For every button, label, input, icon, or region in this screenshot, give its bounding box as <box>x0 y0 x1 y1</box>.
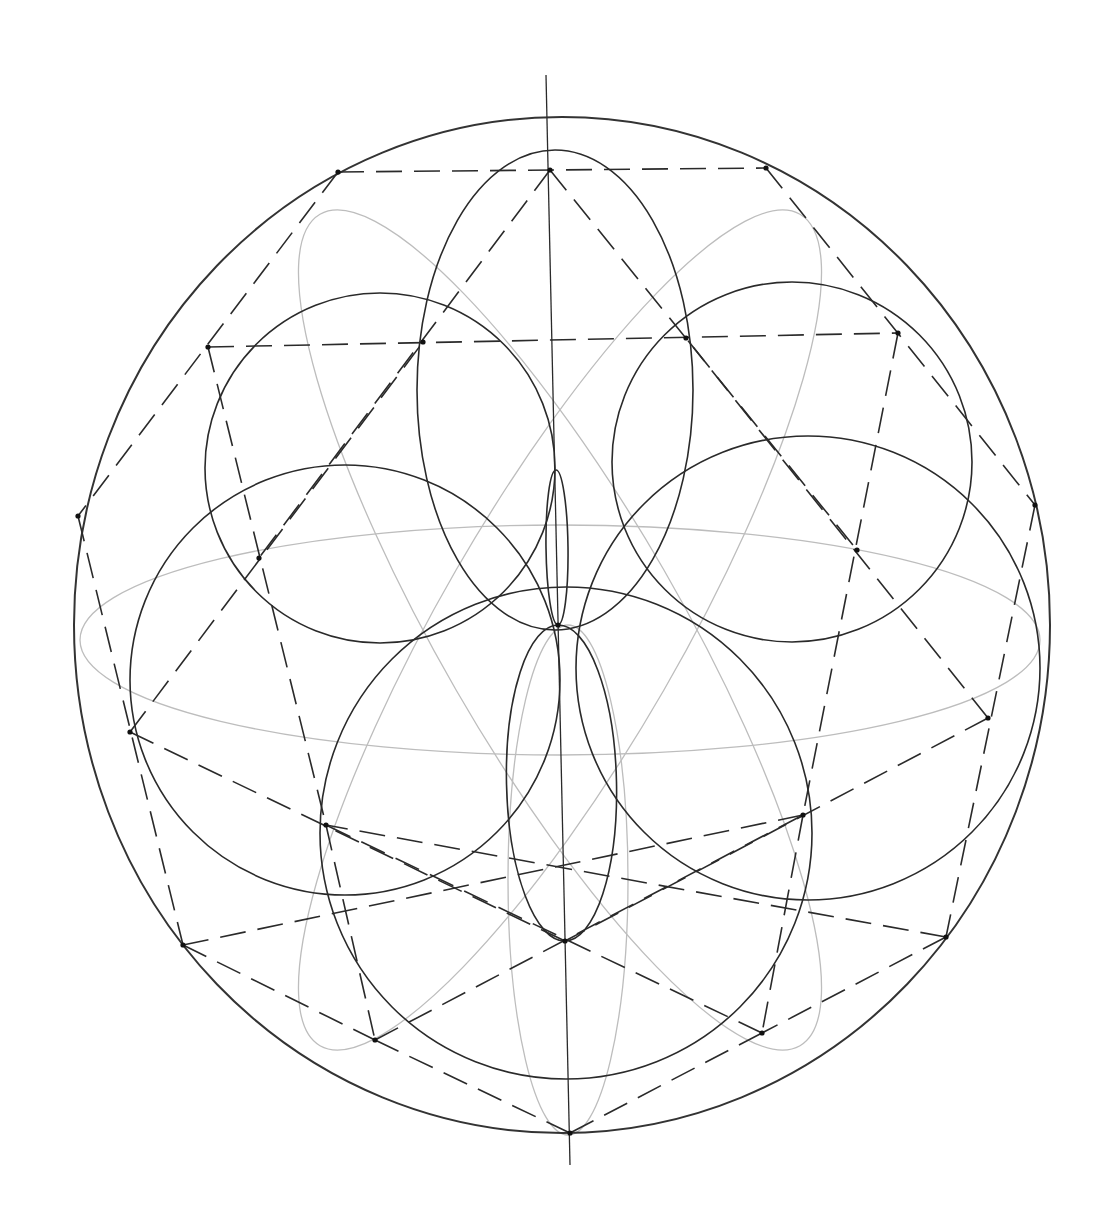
dashed-line <box>326 825 762 1033</box>
vertex-point <box>547 167 552 172</box>
vertex-point <box>759 1030 764 1035</box>
vertex-point <box>323 822 328 827</box>
dashed-line <box>183 815 803 945</box>
flower-circle <box>130 465 560 895</box>
flower-circle <box>417 150 693 630</box>
vertex-point <box>372 1037 377 1042</box>
vertex-point <box>75 513 80 518</box>
vertex-point <box>335 169 340 174</box>
dashed-line <box>130 732 565 941</box>
vertex-point <box>555 622 560 627</box>
vertex-point <box>567 1130 572 1135</box>
flower-circle <box>576 436 1040 900</box>
dashed-line <box>78 172 338 516</box>
geometric-drawing <box>0 0 1106 1230</box>
vertex-point <box>205 344 210 349</box>
vertex-point <box>943 934 948 939</box>
dashed-line <box>803 333 898 815</box>
intersection-points <box>75 165 1037 1135</box>
dashed-line <box>208 347 326 825</box>
dashed-line <box>762 937 946 1033</box>
vertex-point <box>683 335 688 340</box>
vertex-point <box>127 729 132 734</box>
light-construction-arcs <box>80 154 1040 1135</box>
dashed-line <box>570 1033 762 1133</box>
vertex-point <box>1032 502 1037 507</box>
flower-circles <box>130 150 1040 1079</box>
dashed-line <box>259 170 550 558</box>
vertex-point <box>800 812 805 817</box>
center-lenses <box>503 470 620 942</box>
vertex-point <box>854 547 859 552</box>
vertex-point <box>985 715 990 720</box>
vertex-point <box>256 555 261 560</box>
dashed-line <box>326 825 375 1040</box>
dashed-line <box>375 1040 570 1133</box>
dashed-line <box>208 333 898 347</box>
vertex-point <box>180 942 185 947</box>
dashed-line <box>326 825 946 937</box>
vertex-point <box>763 165 768 170</box>
flower-circle <box>612 282 972 642</box>
dashed-line <box>946 505 1035 937</box>
dashed-line <box>762 815 803 1033</box>
vertical-axis-line <box>546 75 570 1165</box>
vertex-point <box>420 339 425 344</box>
dashed-line <box>183 945 375 1040</box>
vertex-point <box>895 330 900 335</box>
vertex-point <box>562 938 567 943</box>
